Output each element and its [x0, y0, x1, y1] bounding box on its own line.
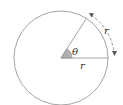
- angle-label: θ: [72, 46, 78, 57]
- angle-wedge-icon: [61, 49, 72, 58]
- radian-diagram: θ r r: [0, 0, 123, 105]
- arc-length-arrow: [91, 15, 114, 52]
- arrowhead-bottom-icon: [112, 51, 117, 56]
- arc-length-label: r: [104, 25, 110, 36]
- radius-label: r: [80, 60, 86, 71]
